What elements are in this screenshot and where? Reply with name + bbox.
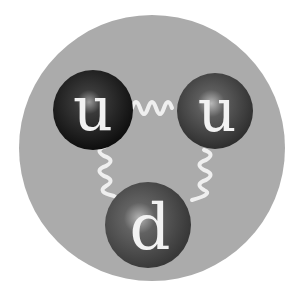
quark-up-1: u bbox=[53, 70, 133, 150]
svg-text:d: d bbox=[130, 190, 171, 264]
proton-diagram: u u d bbox=[0, 0, 303, 296]
quark-up-2: u bbox=[177, 73, 253, 149]
quark-down: d bbox=[105, 182, 191, 268]
svg-text:u: u bbox=[73, 72, 113, 145]
svg-text:u: u bbox=[198, 75, 237, 145]
